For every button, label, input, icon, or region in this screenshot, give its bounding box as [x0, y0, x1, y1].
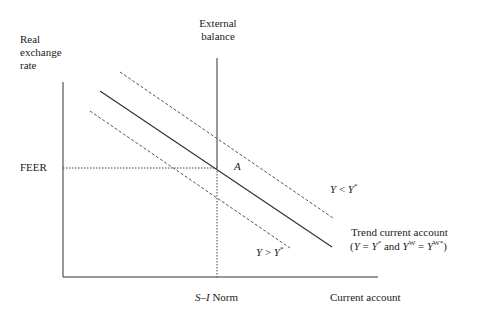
s-i-norm-label: S–I Norm: [195, 291, 238, 304]
x-axis-label: Current account: [330, 291, 401, 304]
point-a-label: A: [234, 160, 241, 173]
uc-op: <: [336, 183, 348, 195]
tl-yw2-sup: W*: [433, 239, 443, 247]
tl-eq1: =: [360, 240, 372, 252]
upper-curve-label: Y < Y*: [330, 183, 357, 196]
trend-current-account-line: [100, 91, 332, 247]
y-axis-label: Real exchange rate: [20, 33, 62, 72]
uc-sup: *: [354, 182, 358, 190]
external-balance-label-line1: External: [188, 17, 248, 30]
external-balance-label: External balance: [188, 17, 248, 43]
tl-eq2: =: [415, 240, 427, 252]
y-axis-label-line2: exchange: [20, 46, 62, 59]
trend-label-line2: (Y = Y* and YW = YW*): [350, 240, 447, 253]
point-a-text: A: [234, 160, 241, 172]
tl-close: ): [443, 240, 447, 252]
lc-op: >: [262, 246, 274, 258]
tl-and: and: [381, 240, 402, 252]
diagram-canvas: [0, 0, 477, 316]
y-axis-label-line3: rate: [20, 59, 62, 72]
lower-dashed-line: [90, 111, 290, 248]
lower-curve-label: Y > Y*: [256, 246, 283, 259]
norm-text: Norm: [210, 291, 238, 303]
lc-sup: *: [280, 245, 284, 253]
upper-dashed-line: [120, 72, 333, 218]
external-balance-label-line2: balance: [188, 30, 248, 43]
trend-label-line1: Trend current account: [351, 226, 448, 239]
feer-label: FEER: [20, 161, 47, 174]
s-i-text: S–I: [195, 291, 210, 303]
y-axis-label-line1: Real: [20, 33, 62, 46]
